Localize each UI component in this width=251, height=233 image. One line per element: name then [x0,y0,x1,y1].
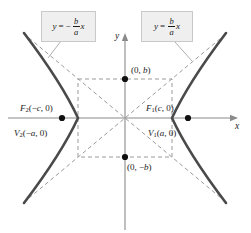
equation-equals-left: = [58,22,63,31]
equation-equals-right: = [160,22,165,31]
equation-asymptote-positive: y = b a x [154,17,180,36]
label-focus-right: F1(c, 0) [146,104,174,114]
label-vertex-left-close: , 0) [35,128,47,138]
label-focus-left-open: (− [29,103,37,113]
label-vertex-right-close: , 0) [164,128,176,138]
equation-variable-left: x [81,22,85,31]
label-focus-right-close: , 0) [162,103,174,113]
point-focus-right [185,115,191,121]
fraction-numerator-left: b [73,17,79,26]
label-vertex-left: V2(−a, 0) [14,129,47,139]
label-co-vertex-lower-open: (0, − [127,162,144,172]
point-co-vertex-upper [122,76,128,82]
leader-line-right-callout [175,42,192,61]
label-focus-left-close: , 0) [41,103,53,113]
hyperbola-svg-canvas [0,0,251,233]
hyperbola-figure: y = − b a x y = b a x y x (0, b) [0,0,251,233]
equation-sign-left: − [66,22,71,31]
fraction-b-over-a-right: b a [168,17,175,36]
equation-variable-right: x [176,22,180,31]
y-axis-label: y [115,32,119,42]
equation-lhs-right: y [154,22,158,31]
leader-line-left-callout [48,41,61,58]
fraction-b-over-a-left: b a [73,17,80,36]
label-vertex-left-open: (− [23,128,31,138]
label-vertex-right: V1(a, 0) [148,129,176,139]
point-co-vertex-lower [122,154,128,160]
equation-lhs-left: y [52,22,56,31]
label-co-vertex-upper: (0, b) [131,66,151,75]
label-co-vertex-upper-close: ) [148,65,151,75]
fraction-denominator-left: a [73,27,79,36]
fraction-numerator-right: b [168,17,174,26]
callout-box-asymptote-negative: y = − b a x [41,11,96,42]
label-co-vertex-lower: (0, −b) [127,163,152,172]
x-axis-label: x [235,122,239,132]
label-co-vertex-upper-open: (0, [131,65,143,75]
point-focus-left [59,115,65,121]
y-axis-arrowhead [122,33,128,41]
label-focus-left: F2(−c, 0) [20,104,53,114]
equation-asymptote-negative: y = − b a x [52,17,84,36]
fraction-denominator-right: a [168,27,174,36]
label-co-vertex-lower-close: ) [149,162,152,172]
callout-box-asymptote-positive: y = b a x [141,11,193,42]
